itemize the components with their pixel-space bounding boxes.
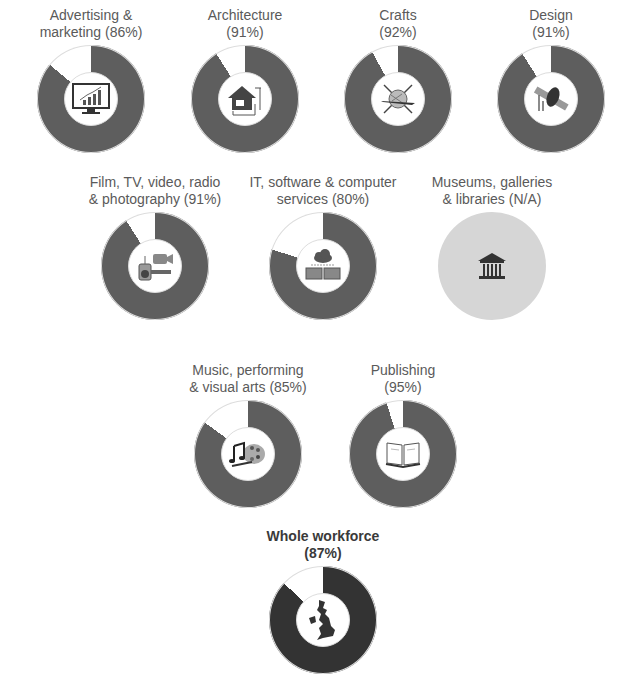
uk-map-icon: [305, 598, 341, 642]
chart-label: Publishing(95%): [323, 362, 483, 396]
chart-film-tv-video-radio-photography: Film, TV, video, radio& photography (91%…: [75, 174, 235, 320]
donut-chart-na: [438, 212, 546, 320]
donut-chart: [349, 400, 457, 508]
chart-whole-workforce: Whole workforce(87%): [243, 528, 403, 674]
monitor-chart-icon: [71, 82, 111, 116]
donut-chart: [37, 45, 145, 153]
chart-crafts: Crafts(92%): [318, 7, 478, 153]
donut-chart: [269, 566, 377, 674]
open-book-icon: [383, 437, 423, 471]
donut-chart: [344, 45, 452, 153]
museum-icon: [476, 251, 508, 281]
music-palette-icon: [228, 436, 268, 472]
chart-label: IT, software & computerservices (80%): [243, 174, 403, 208]
chart-label: Advertising &marketing (86%): [11, 7, 171, 41]
chart-advertising-marketing: Advertising &marketing (86%): [11, 7, 171, 153]
camera-film-icon: [135, 248, 175, 284]
chart-label: Music, performing& visual arts (85%): [168, 362, 328, 396]
chart-it-software-computer-services: IT, software & computerservices (80%): [243, 174, 403, 320]
chart-label: Crafts(92%): [318, 7, 478, 41]
chart-design: Design(91%): [471, 7, 624, 153]
chart-label: Museums, galleries& libraries (N/A): [412, 174, 572, 208]
chart-label: Whole workforce(87%): [243, 528, 403, 562]
design-tools-icon: [531, 81, 571, 117]
donut-chart: [191, 45, 299, 153]
chart-museums-galleries-libraries: Museums, galleries& libraries (N/A): [412, 174, 572, 320]
yarn-needles-icon: [378, 81, 418, 117]
cloud-servers-icon: [303, 248, 343, 284]
house-blueprint-icon: [225, 82, 265, 116]
donut-chart: [269, 212, 377, 320]
donut-chart: [101, 212, 209, 320]
chart-label: Film, TV, video, radio& photography (91%…: [75, 174, 235, 208]
donut-chart: [497, 45, 605, 153]
chart-label: Architecture(91%): [165, 7, 325, 41]
chart-publishing: Publishing(95%): [323, 362, 483, 508]
donut-chart: [194, 400, 302, 508]
chart-music-performing-visual-arts: Music, performing& visual arts (85%): [168, 362, 328, 508]
chart-architecture: Architecture(91%): [165, 7, 325, 153]
chart-label: Design(91%): [471, 7, 624, 41]
